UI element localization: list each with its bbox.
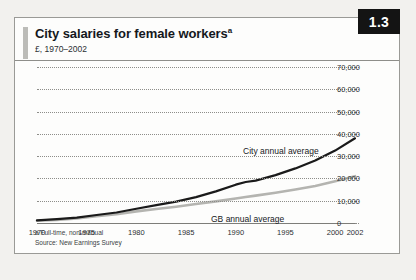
gridline <box>37 89 355 90</box>
chart-plot-area <box>37 67 355 223</box>
x-axis-tick-label: 1985 <box>178 228 195 237</box>
page-title: City salaries for female workersa <box>35 26 232 41</box>
x-axis-tick-label: 1970 <box>29 228 46 237</box>
x-axis-tick-label: 2002 <box>347 228 364 237</box>
series-label-city: City annual average <box>243 146 319 156</box>
y-axis-tick-label: 40,000 <box>337 129 389 138</box>
y-axis-tick-label: 0 <box>337 219 389 228</box>
figure-card: 1.3 City salaries for female workersa £,… <box>14 17 400 254</box>
y-axis-tick-label: 70,000 <box>337 63 389 72</box>
chart-series-layer <box>37 67 355 223</box>
y-axis-tick-label: 50,000 <box>337 107 389 116</box>
x-axis-tick-label: 1995 <box>277 228 294 237</box>
x-axis-tick-label: 1980 <box>128 228 145 237</box>
gridline <box>37 178 355 179</box>
series-line <box>37 176 355 221</box>
gridline <box>37 112 355 113</box>
gridline <box>37 134 355 135</box>
y-axis-tick-label: 30,000 <box>337 152 389 161</box>
x-axis-line <box>37 223 355 224</box>
series-label-gb: GB annual average <box>211 214 284 224</box>
page-title-text: City salaries for female workers <box>35 26 228 41</box>
gridline <box>37 156 355 157</box>
y-axis-tick-label: 20,000 <box>337 174 389 183</box>
x-axis-tick-label: 1990 <box>227 228 244 237</box>
footnote-source: Source: New Earnings Survey <box>35 238 122 248</box>
title-footnote-marker: a <box>228 26 232 35</box>
x-axis-tick-label: 2000 <box>327 228 344 237</box>
gridline <box>37 201 355 202</box>
header-divider <box>15 60 399 61</box>
y-axis-tick-label: 10,000 <box>337 196 389 205</box>
x-axis-tick-label: 1975 <box>78 228 95 237</box>
figure-subtitle: £, 1970–2002 <box>35 44 87 54</box>
y-axis-tick-label: 60,000 <box>337 85 389 94</box>
title-accent-bar <box>23 27 28 59</box>
gridline <box>37 67 355 68</box>
figure-number-badge: 1.3 <box>358 9 400 34</box>
